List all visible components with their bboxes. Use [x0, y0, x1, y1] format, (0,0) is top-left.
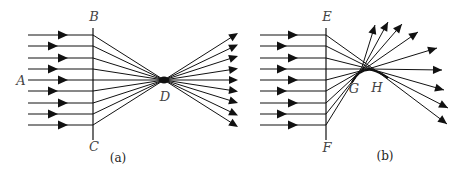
label-C: C [89, 139, 99, 154]
label-D: D [160, 89, 170, 104]
label-G: G [349, 81, 359, 96]
optics-diagram: A B C D (a) E F G H (b) [0, 0, 464, 172]
label-E: E [322, 9, 332, 24]
label-B: B [89, 9, 99, 24]
label-F: F [322, 140, 331, 155]
caption-b: (b) [376, 149, 393, 163]
ray-diagram-svg [0, 0, 464, 172]
caption-a: (a) [110, 151, 127, 165]
label-A: A [16, 73, 25, 88]
label-H: H [371, 80, 382, 95]
